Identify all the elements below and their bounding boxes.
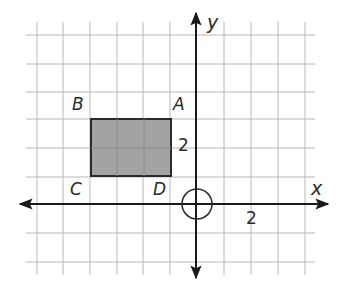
- vertex-label-c: C: [70, 181, 82, 198]
- vertex-label-b: B: [72, 96, 84, 113]
- vertex-label-a: A: [173, 96, 185, 113]
- rectangle-abcd: [91, 119, 171, 176]
- x-axis-label: x: [311, 179, 322, 198]
- y-tick-label-2: 2: [178, 137, 189, 154]
- coordinate-plane-figure: y x B A C D 2 2: [0, 0, 343, 282]
- x-tick-label-2: 2: [246, 210, 257, 227]
- y-axis-label: y: [207, 13, 218, 32]
- vertex-label-d: D: [153, 181, 166, 198]
